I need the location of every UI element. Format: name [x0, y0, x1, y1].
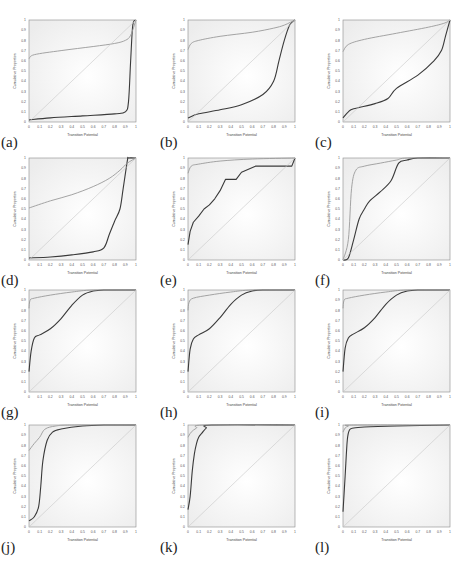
y-tick-label: 1	[24, 18, 26, 22]
y-tick-label: 0.3	[335, 90, 340, 94]
line-chart: 00.10.20.30.40.50.60.70.80.9100.10.20.30…	[166, 417, 321, 557]
line-chart: 00.10.20.30.40.50.60.70.80.9100.10.20.30…	[321, 150, 463, 290]
y-tick-label: 0.4	[21, 484, 26, 488]
y-tick-label: 0.9	[21, 166, 26, 170]
y-tick-label: 0.1	[335, 515, 340, 519]
x-tick-label: 0.3	[373, 530, 378, 534]
x-tick-label: 0	[28, 125, 30, 129]
y-axis-label: Cumulative Proportion	[327, 458, 331, 494]
y-tick-label: 0.9	[180, 298, 185, 302]
y-tick-label: 1	[338, 423, 340, 427]
x-tick-label: 0.8	[112, 125, 117, 129]
y-tick-label: 0.1	[21, 110, 26, 114]
y-tick-label: 0.1	[335, 248, 340, 252]
chart-panel: 00.10.20.30.40.50.60.70.80.9100.10.20.30…	[321, 12, 463, 152]
y-tick-label: 0.6	[21, 464, 26, 468]
y-axis-label: Cumulative Proportion	[13, 53, 17, 89]
y-tick-label: 0.1	[180, 380, 185, 384]
y-axis-label: Cumulative Proportion	[13, 191, 17, 227]
chart-panel: 00.10.20.30.40.50.60.70.80.9100.10.20.30…	[166, 12, 321, 152]
line-chart: 00.10.20.30.40.50.60.70.80.9100.10.20.30…	[7, 417, 162, 557]
x-tick-label: 1	[449, 530, 451, 534]
x-tick-label: 0.2	[48, 395, 53, 399]
y-tick-label: 0	[338, 390, 340, 394]
y-axis-label: Cumulative Proportion	[327, 191, 331, 227]
y-tick-label: 0.9	[335, 166, 340, 170]
y-tick-label: 0.4	[335, 79, 340, 83]
y-tick-label: 0.5	[180, 339, 185, 343]
x-axis-label: Transition Potential	[381, 403, 412, 407]
x-tick-label: 0.7	[261, 125, 266, 129]
x-tick-label: 0.5	[80, 263, 85, 267]
y-tick-label: 0.8	[180, 309, 185, 313]
x-tick-label: 0.6	[250, 395, 255, 399]
panel-label: (a)	[1, 134, 18, 151]
x-tick-label: 0.4	[228, 395, 233, 399]
x-tick-label: 0.5	[239, 125, 244, 129]
x-tick-label: 0.9	[282, 530, 287, 534]
y-tick-label: 0.2	[180, 370, 185, 374]
x-tick-label: 0.5	[394, 395, 399, 399]
y-tick-label: 1	[24, 423, 26, 427]
y-tick-label: 0	[24, 120, 26, 124]
x-tick-label: 0.1	[37, 125, 42, 129]
x-tick-label: 0.7	[416, 530, 421, 534]
y-tick-label: 0	[183, 525, 185, 529]
x-tick-label: 0.8	[112, 530, 117, 534]
y-tick-label: 0.3	[180, 360, 185, 364]
x-tick-label: 1	[135, 125, 137, 129]
x-tick-label: 1	[294, 530, 296, 534]
line-chart: 00.10.20.30.40.50.60.70.80.9100.10.20.30…	[7, 282, 162, 422]
chart-panel: 00.10.20.30.40.50.60.70.80.9100.10.20.30…	[166, 282, 321, 422]
x-tick-label: 0.5	[239, 395, 244, 399]
y-tick-label: 0.6	[21, 329, 26, 333]
x-tick-label: 0.9	[437, 530, 442, 534]
x-tick-label: 0.3	[218, 530, 223, 534]
x-tick-label: 0	[187, 395, 189, 399]
y-tick-label: 0	[24, 525, 26, 529]
x-tick-label: 0	[28, 395, 30, 399]
y-tick-label: 0.3	[335, 495, 340, 499]
x-tick-label: 0.3	[373, 125, 378, 129]
y-tick-label: 0.9	[180, 166, 185, 170]
y-tick-label: 1	[183, 156, 185, 160]
x-tick-label: 0.6	[405, 263, 410, 267]
x-tick-label: 1	[294, 395, 296, 399]
y-tick-label: 0.2	[21, 238, 26, 242]
x-tick-label: 0.4	[383, 395, 388, 399]
y-tick-label: 0.1	[180, 515, 185, 519]
y-tick-label: 0.9	[335, 433, 340, 437]
y-tick-label: 0.6	[335, 197, 340, 201]
y-tick-label: 0.1	[335, 110, 340, 114]
y-tick-label: 0.6	[335, 464, 340, 468]
y-tick-label: 0.6	[180, 464, 185, 468]
y-tick-label: 0.7	[335, 454, 340, 458]
x-tick-label: 0.4	[383, 530, 388, 534]
x-tick-label: 0	[342, 263, 344, 267]
x-tick-label: 0.2	[48, 263, 53, 267]
y-tick-label: 0.2	[180, 100, 185, 104]
x-tick-label: 0.6	[405, 125, 410, 129]
x-tick-label: 0.4	[383, 125, 388, 129]
x-tick-label: 0.7	[102, 125, 107, 129]
y-tick-label: 0.4	[21, 79, 26, 83]
x-tick-label: 0.4	[69, 125, 74, 129]
x-tick-label: 1	[449, 395, 451, 399]
x-tick-label: 0.6	[250, 263, 255, 267]
x-tick-label: 0.3	[59, 263, 64, 267]
x-tick-label: 0.7	[102, 263, 107, 267]
y-tick-label: 0.9	[180, 433, 185, 437]
x-tick-label: 0.4	[69, 530, 74, 534]
x-tick-label: 0.5	[394, 125, 399, 129]
x-tick-label: 0.9	[437, 263, 442, 267]
y-tick-label: 0.8	[335, 177, 340, 181]
x-tick-label: 0.9	[123, 263, 128, 267]
x-tick-label: 0.7	[102, 395, 107, 399]
y-tick-label: 0.6	[180, 197, 185, 201]
line-chart: 00.10.20.30.40.50.60.70.80.9100.10.20.30…	[321, 282, 463, 422]
x-tick-label: 0.4	[228, 263, 233, 267]
y-tick-label: 1	[338, 156, 340, 160]
x-axis-label: Transition Potential	[381, 538, 412, 542]
chart-panel: 00.10.20.30.40.50.60.70.80.9100.10.20.30…	[166, 150, 321, 290]
y-tick-label: 0.9	[180, 28, 185, 32]
